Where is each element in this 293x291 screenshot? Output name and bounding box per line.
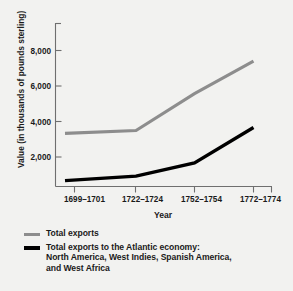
series-line-total-exports: [65, 61, 254, 133]
series-line-atlantic-exports: [65, 128, 254, 181]
x-axis-title: Year: [154, 210, 173, 220]
legend-label-atlantic-line1: Total exports to the Atlantic economy:: [46, 242, 200, 252]
legend-swatch-black-icon: [24, 246, 40, 250]
legend-label-atlantic-exports: Total exports to the Atlantic economy:No…: [46, 242, 232, 274]
y-tick-label-2000: 2,000: [31, 153, 52, 162]
x-tick-label-1: 1699–1701: [64, 195, 105, 204]
x-tick-label-3: 1752–1754: [181, 195, 222, 204]
y-tick-label-8000: 8,000: [31, 47, 52, 56]
chart-figure: 8,000 6,000 4,000 2,000 Value (in thousa…: [0, 0, 293, 291]
legend-item-total-exports[interactable]: Total exports: [24, 228, 286, 239]
y-tick-label-6000: 6,000: [31, 82, 52, 91]
y-tick-label-4000: 4,000: [31, 118, 52, 127]
x-tick-label-2: 1722–1724: [122, 195, 163, 204]
legend-item-atlantic-exports[interactable]: Total exports to the Atlantic economy:No…: [24, 242, 286, 274]
legend-label-atlantic-line3: and West Africa: [46, 263, 110, 273]
y-axis-title: Value (in thousands of pounds sterling): [16, 11, 26, 168]
legend-label-atlantic-line2: North America, West Indies, Spanish Amer…: [46, 252, 232, 262]
legend-swatch-gray-icon: [24, 233, 40, 236]
x-tick-label-4: 1772–1774: [240, 195, 281, 204]
legend-label-total-exports: Total exports: [46, 228, 99, 239]
chart-legend: Total exports Total exports to the Atlan…: [24, 228, 286, 276]
